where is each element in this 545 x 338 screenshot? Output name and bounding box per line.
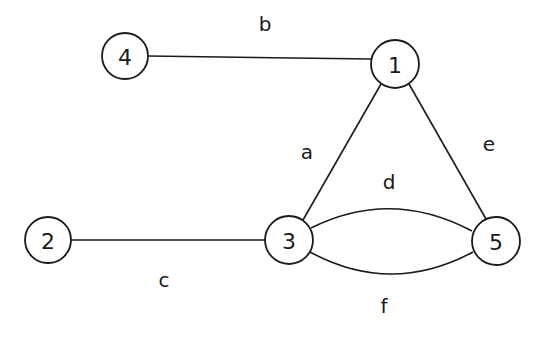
edge-a — [303, 84, 381, 220]
edge-label-f: f — [380, 294, 388, 318]
edge-label-c: c — [159, 268, 170, 292]
edge-b — [148, 56, 371, 59]
edge-label-a: a — [301, 140, 313, 164]
node-3: 3 — [265, 216, 313, 264]
node-label: 1 — [388, 53, 402, 78]
edge-d — [311, 209, 472, 231]
node-label: 2 — [41, 229, 55, 254]
edge-f — [310, 252, 473, 274]
edge-e — [409, 84, 486, 219]
graph-diagram: 4 1 2 3 5 b a e d c f — [0, 0, 545, 338]
node-5: 5 — [472, 217, 520, 265]
node-label: 3 — [282, 229, 296, 254]
node-2: 2 — [25, 217, 71, 263]
edge-label-e: e — [483, 132, 495, 156]
edge-label-b: b — [259, 12, 272, 36]
edge-label-d: d — [383, 170, 396, 194]
node-1: 1 — [371, 40, 419, 88]
node-4: 4 — [102, 33, 148, 79]
node-label: 4 — [118, 45, 132, 70]
node-label: 5 — [489, 230, 503, 255]
